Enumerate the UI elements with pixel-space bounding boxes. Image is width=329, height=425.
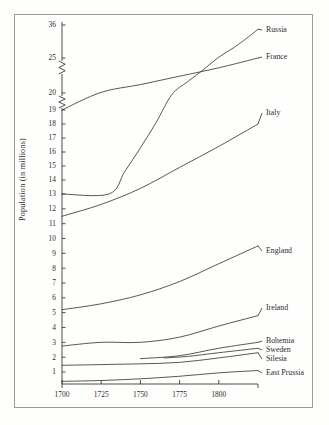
- series-label-france: France: [266, 53, 287, 61]
- series-label-ireland: Ireland: [266, 304, 288, 312]
- figure-container: 12345678910111213141516171819202536 1700…: [0, 0, 329, 425]
- series-label-sweden: Sweden: [266, 346, 291, 354]
- series-label-italy: Italy: [266, 109, 280, 117]
- series-label-east-prussia: East Prussia: [266, 369, 304, 377]
- series-inline-labels: RussiaFranceItalyEnglandIrelandBohemiaSw…: [0, 0, 329, 425]
- series-label-silesia: Silesia: [266, 355, 287, 363]
- series-label-bohemia: Bohemia: [266, 337, 294, 345]
- series-label-russia: Russia: [266, 26, 287, 34]
- y-axis-title: Population (in millions): [18, 120, 27, 240]
- series-label-england: England: [266, 247, 292, 255]
